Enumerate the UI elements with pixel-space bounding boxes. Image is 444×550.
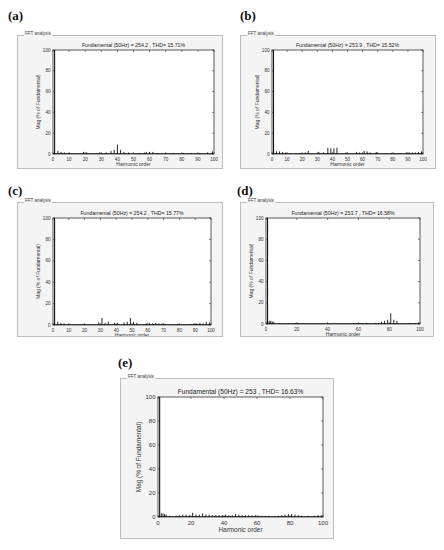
x-tick-label: 0 [271,157,274,162]
y-tick-label: 100 [262,48,270,53]
x-tick-label: 70 [163,157,169,162]
x-tick-label: 20 [82,328,88,333]
x-tick-label: 30 [99,157,105,162]
y-tick-label: 60 [149,442,156,448]
y-tick-label: 20 [264,131,270,136]
y-tick-label: 40 [258,279,264,284]
x-axis-label: Harmonic order [115,332,150,336]
y-tick-label: 0 [267,152,270,157]
x-tick-label: 100 [318,520,329,526]
y-tick-label: 40 [264,110,270,115]
x-tick-label: 100 [419,157,427,162]
x-tick-label: 80 [287,520,294,526]
y-tick-label: 60 [45,258,51,263]
chart-title: Fundamental (50Hz) = 253 , THD= 16.63% [178,388,304,396]
x-axis-label: Harmonic order [330,161,365,167]
chart-title: Fundamental (50Hz) = 253.9 , THD= 15.52% [296,42,400,48]
panel-label-b: (b) [240,8,256,24]
x-tick-label: 100 [207,328,215,333]
fft-chart-a: Fundamental (50Hz) = 254.2 , THD= 15.71%… [18,36,222,168]
chart-title: Fundamental (50Hz) = 253.7 , THD= 16.58% [291,210,395,216]
x-tick-label: 80 [390,157,396,162]
y-tick-label: 100 [43,48,51,53]
x-tick-label: 0 [156,520,160,526]
y-tick-label: 60 [264,89,270,94]
y-tick-label: 20 [45,301,51,306]
fft-frame-a: FFT analysis Fundamental (50Hz) = 254.2 … [17,35,223,169]
x-tick-label: 80 [387,327,393,332]
plot-area [266,218,420,324]
fft-frame-c: FFT analysis Fundamental (50Hz) = 254.2 … [17,202,223,337]
y-axis-label: Mag (% of Fundamental) [35,244,41,299]
y-axis-label: Mag (% of Fundamental) [135,422,143,492]
y-tick-label: 0 [48,323,51,328]
x-tick-label: 30 [98,328,104,333]
y-tick-label: 80 [45,68,51,73]
fft-frame-b: FFT analysis Fundamental (50Hz) = 253.9 … [240,35,436,169]
x-tick-label: 20 [83,157,89,162]
y-tick-label: 20 [149,490,156,496]
y-tick-label: 80 [258,237,264,242]
chart-title: Fundamental (50Hz) = 254.2 , THD= 15.77% [80,210,184,216]
plot-area [272,50,423,154]
x-tick-label: 90 [193,328,199,333]
y-tick-label: 40 [45,110,51,115]
y-tick-label: 80 [45,237,51,242]
y-tick-label: 0 [261,322,264,327]
y-axis-label: Mag (% of Fundamental) [254,74,260,129]
x-tick-label: 70 [161,328,167,333]
x-tick-label: 0 [52,157,55,162]
fft-frame-e: FFT analysis Fundamental (50Hz) = 253 , … [120,378,334,539]
x-tick-label: 10 [285,157,291,162]
x-tick-label: 10 [67,157,73,162]
plot-area [53,218,211,325]
panel-label-e: (e) [118,355,132,371]
y-tick-label: 40 [149,466,156,472]
x-tick-label: 90 [405,157,411,162]
y-tick-label: 60 [45,89,51,94]
x-tick-label: 100 [416,327,424,332]
y-tick-label: 40 [45,280,51,285]
y-tick-label: 100 [43,216,51,221]
x-tick-label: 0 [265,327,268,332]
x-tick-label: 20 [188,520,195,526]
panel-label-a: (a) [8,8,23,24]
plot-area [158,397,323,517]
x-axis-label: Harmonic order [218,526,263,533]
y-tick-label: 20 [258,300,264,305]
x-tick-label: 0 [52,328,55,333]
y-tick-label: 60 [258,258,264,263]
fft-chart-b: Fundamental (50Hz) = 253.9 , THD= 15.52%… [241,36,435,168]
x-tick-label: 30 [315,157,321,162]
fft-chart-e: Fundamental (50Hz) = 253 , THD= 16.63%02… [121,379,333,538]
x-axis-label: Harmonic order [326,331,361,336]
y-tick-label: 80 [149,418,156,424]
panel-label-c: (c) [8,183,22,199]
fft-frame-d: FFT analysis Fundamental (50Hz) = 253.7 … [240,202,434,337]
x-tick-label: 70 [375,157,381,162]
x-tick-label: 100 [210,157,218,162]
x-tick-label: 90 [195,157,201,162]
panel-label-d: (d) [237,183,253,199]
y-tick-label: 100 [145,394,156,400]
fft-chart-c: Fundamental (50Hz) = 254.2 , THD= 15.77%… [18,203,222,336]
y-axis-label: Mag (% of Fundamental) [248,243,254,298]
fft-chart-d: Fundamental (50Hz) = 253.7 , THD= 16.58%… [241,203,433,336]
x-tick-label: 80 [179,157,185,162]
plot-area [53,50,214,154]
x-tick-label: 20 [300,157,306,162]
y-axis-label: Mag (% of Fundamental) [35,74,41,129]
x-tick-label: 10 [66,328,72,333]
chart-title: Fundamental (50Hz) = 254.2 , THD= 15.71% [82,42,186,48]
y-tick-label: 80 [264,68,270,73]
y-tick-label: 0 [48,152,51,157]
x-axis-label: Harmonic order [116,161,151,167]
x-tick-label: 20 [294,327,300,332]
y-tick-label: 20 [45,131,51,136]
x-tick-label: 80 [177,328,183,333]
y-tick-label: 100 [256,216,264,221]
